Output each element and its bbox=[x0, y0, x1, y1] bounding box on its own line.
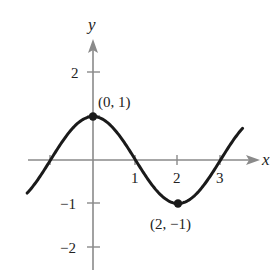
y-tick-label-2: 2 bbox=[71, 65, 79, 81]
y-axis-label: y bbox=[86, 15, 96, 34]
function-graph: y x 1 2 3 2 −1 −2 (0, 1) (2, −1) bbox=[0, 0, 275, 276]
x-axis-label: x bbox=[261, 150, 270, 169]
x-tick-label-2: 2 bbox=[173, 170, 181, 186]
point-max bbox=[89, 112, 97, 120]
point-max-label: (0, 1) bbox=[98, 94, 131, 111]
point-min-label: (2, −1) bbox=[150, 216, 191, 233]
axes bbox=[28, 47, 252, 270]
y-tick-label-neg2: −2 bbox=[60, 240, 76, 256]
x-tick-label-3: 3 bbox=[216, 170, 224, 186]
x-tick-label-1: 1 bbox=[131, 170, 139, 186]
y-tick-label-neg1: −1 bbox=[60, 196, 76, 212]
point-min bbox=[174, 199, 182, 207]
